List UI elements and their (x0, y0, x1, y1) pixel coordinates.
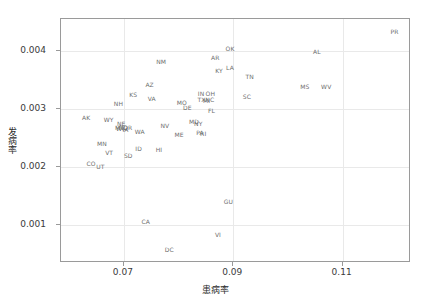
y-tick-label: 0.002 (0, 161, 46, 171)
x-tick-mark (123, 262, 124, 266)
data-point-label: VI (215, 232, 221, 238)
data-point-label: SD (124, 153, 133, 159)
data-point-label: WA (135, 129, 145, 135)
gridline-horizontal (61, 109, 409, 110)
data-point-label: WV (321, 84, 331, 90)
y-axis-label: 发病率 (6, 127, 19, 154)
y-tick-mark (56, 166, 60, 167)
y-tick-label: 0.004 (0, 45, 46, 55)
gridline-horizontal (61, 51, 409, 52)
data-point-label: MS (300, 84, 309, 90)
data-point-label: PR (391, 29, 399, 35)
data-point-label: AL (313, 49, 321, 55)
data-point-label: VA (148, 96, 156, 102)
data-point-label: DE (183, 105, 192, 111)
data-point-label: CA (142, 219, 151, 225)
data-point-label: NY (194, 121, 202, 127)
x-tick-label: 0.09 (222, 267, 242, 277)
data-point-label: UT (96, 164, 104, 170)
data-point-label: LA (226, 65, 234, 71)
x-tick-label: 0.07 (113, 267, 133, 277)
y-tick-label: 0.003 (0, 103, 46, 113)
data-point-label: ME (175, 132, 184, 138)
data-point-label: HI (156, 147, 162, 153)
y-tick-mark (56, 108, 60, 109)
data-point-label: MI (203, 98, 210, 104)
data-point-label: IA (122, 127, 128, 133)
data-point-label: KY (215, 68, 223, 74)
data-point-label: SC (243, 94, 251, 100)
data-point-label: WY (104, 117, 114, 123)
data-point-label: CO (87, 161, 96, 167)
data-point-label: FL (208, 108, 215, 114)
data-point-label: OK (226, 46, 235, 52)
y-tick-mark (56, 50, 60, 51)
data-point-label: RI (200, 131, 206, 137)
x-tick-label: 0.11 (332, 267, 352, 277)
data-point-label: KS (129, 92, 137, 98)
data-point-label: ID (135, 146, 142, 152)
data-point-label: AZ (145, 82, 153, 88)
gridline-horizontal (61, 167, 409, 168)
scatter-plot-figure: PROKALARNMLAKYTNAZMSWVINOHKSSCVATXNCMIMO… (0, 0, 431, 303)
plot-area: PROKALARNMLAKYTNAZMSWVINOHKSSCVATXNCMIMO… (60, 18, 410, 262)
data-point-label: GU (224, 199, 233, 205)
data-point-label: MN (97, 141, 107, 147)
data-point-label: NV (161, 123, 170, 129)
x-tick-mark (232, 262, 233, 266)
x-axis-label: 患病率 (0, 283, 431, 296)
data-point-label: DC (165, 247, 174, 253)
data-point-label: TN (245, 74, 253, 80)
data-point-label: AR (211, 55, 219, 61)
data-point-label: NM (156, 59, 166, 65)
y-tick-mark (56, 224, 60, 225)
data-point-label: AK (82, 115, 90, 121)
gridline-horizontal (61, 225, 409, 226)
x-tick-mark (342, 262, 343, 266)
data-point-label: VT (105, 150, 113, 156)
y-tick-label: 0.001 (0, 219, 46, 229)
data-point-label: NH (114, 101, 123, 107)
